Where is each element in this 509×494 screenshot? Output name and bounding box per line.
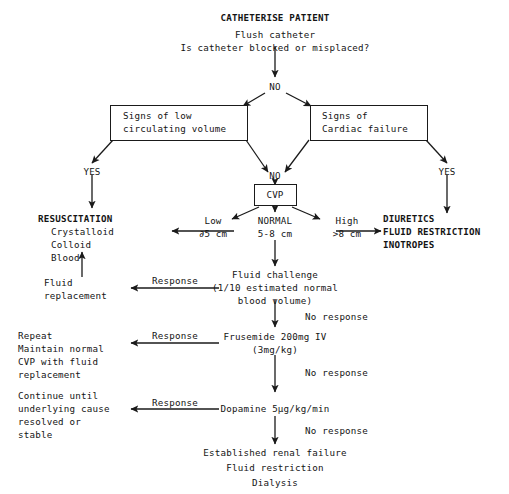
header-line-flush-catheter: Flush catheter <box>235 29 315 41</box>
label-yes-right: YES <box>438 166 455 178</box>
value-cvp-high: >8 cm <box>333 228 362 240</box>
continue-line1: Continue until <box>18 390 98 402</box>
fluid-challenge-line3: blood volume) <box>238 295 313 307</box>
continue-line3: resolved or <box>18 416 81 428</box>
label-cvp-low: Low <box>204 215 221 227</box>
label-cvp-normal: NORMAL <box>258 215 292 227</box>
fluid-challenge-line2: (1/10 estimated normal <box>212 282 338 294</box>
diuretics-line1: DIURETICS <box>383 213 435 225</box>
label-yes-left: YES <box>83 166 100 178</box>
resuscitation-line2: Crystalloid <box>51 226 114 238</box>
edge-label-no-response-1: No response <box>305 311 368 323</box>
edge-label-response-3: Response <box>152 397 198 409</box>
diuretics-line2: FLUID RESTRICTION <box>383 226 480 238</box>
frusemide-line2: (3mg/kg) <box>252 344 298 356</box>
box-low-volume-line2: circulating volume <box>123 123 226 135</box>
resuscitation-line3: Colloid <box>51 239 91 251</box>
page-title: CATHETERISE PATIENT <box>221 12 330 24</box>
header-line-question: Is catheter blocked or misplaced? <box>180 42 369 54</box>
established-line1: Established renal failure <box>203 447 346 459</box>
established-line3: Dialysis <box>252 477 298 489</box>
repeat-line2: Maintain normal <box>18 343 104 355</box>
continue-line2: underlying cause <box>18 403 110 415</box>
edge-label-no-response-2: No response <box>305 367 368 379</box>
resuscitation-line4: Blood <box>51 252 80 264</box>
box-cardiac-line1: Signs of <box>322 110 368 122</box>
repeat-line3: CVP with fluid <box>18 356 98 368</box>
edge-label-response-1: Response <box>152 275 198 287</box>
label-no-top: NO <box>269 81 280 93</box>
repeat-line1: Repeat <box>18 330 52 342</box>
label-no-middle: NO <box>269 170 280 182</box>
label-cvp-high: High <box>336 215 359 227</box>
fluid-replacement-line1: Fluid <box>44 277 73 289</box>
value-cvp-low: ∂5 cm <box>199 228 228 240</box>
label-cvp: CVP <box>266 189 283 201</box>
frusemide-line1: Frusemide 200mg IV <box>223 331 326 343</box>
edge-label-response-2: Response <box>152 330 198 342</box>
edge-label-no-response-3: No response <box>305 425 368 437</box>
diuretics-line3: INOTROPES <box>383 239 435 251</box>
established-line2: Fluid restriction <box>226 462 323 474</box>
continue-line4: stable <box>18 429 52 441</box>
resuscitation-line1: RESUSCITATION <box>38 213 113 225</box>
flowchart-canvas: CATHETERISE PATIENT Flush catheter Is ca… <box>0 0 509 494</box>
box-cardiac-line2: Cardiac failure <box>322 123 408 135</box>
fluid-challenge-line1: Fluid challenge <box>232 269 318 281</box>
repeat-line4: replacement <box>18 369 81 381</box>
dopamine-label: Dopamine 5µg/kg/min <box>221 403 330 415</box>
box-low-volume-line1: Signs of low <box>123 110 192 122</box>
value-cvp-normal: 5-8 cm <box>258 228 292 240</box>
fluid-replacement-line2: replacement <box>44 290 107 302</box>
